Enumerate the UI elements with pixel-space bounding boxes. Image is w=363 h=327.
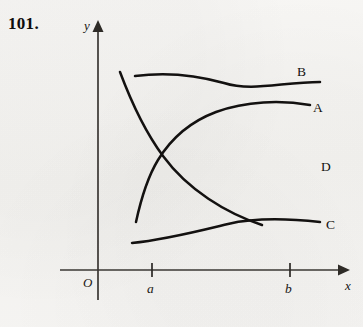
curve-path-A: [136, 102, 310, 222]
curve-label-A: A: [313, 100, 323, 115]
curve-path-C: [132, 219, 320, 243]
y-axis-arrowhead: [93, 20, 104, 32]
x-axis-arrowhead: [338, 265, 350, 276]
curve-diagram: y x O a b A B C D: [0, 0, 363, 327]
axis-group: [60, 20, 350, 300]
curve-path-B: [135, 74, 320, 87]
y-axis-label: y: [82, 18, 90, 33]
curve-group: [120, 72, 320, 243]
x-axis-label: x: [344, 278, 351, 293]
curve-label-B: B: [297, 64, 306, 79]
figure-page: 101. y x O a b A B C D: [0, 0, 363, 327]
curve-label-C: C: [326, 217, 335, 232]
tick-label-b: b: [285, 281, 292, 296]
tick-label-a: a: [147, 281, 154, 296]
curve-label-D: D: [321, 159, 331, 174]
origin-label: O: [83, 275, 93, 290]
